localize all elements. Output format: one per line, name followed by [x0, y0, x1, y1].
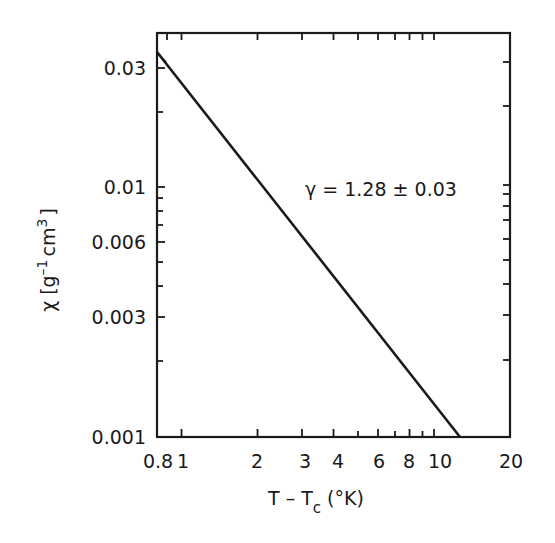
x-tick-label: 6 — [373, 450, 385, 472]
x-axis-unit: (°K) — [321, 487, 364, 509]
y-tick-label: 0.01 — [104, 176, 146, 198]
y-axis-bracket-close: ] — [37, 208, 59, 215]
y-tick-label: 0.006 — [92, 231, 146, 253]
y-tick-label: 0.001 — [92, 426, 146, 448]
y-axis-symbol: χ — [37, 301, 59, 312]
plot-frame — [157, 33, 510, 437]
x-tick-label: 0.8 — [143, 450, 173, 472]
x-axis-main: T – T — [267, 487, 313, 509]
y-tick-label: 0.003 — [92, 306, 146, 328]
y-ticks-left — [157, 68, 165, 361]
y-axis-bracket-open: [g — [37, 275, 59, 294]
x-tick-label: 4 — [332, 450, 344, 472]
y-axis-mid: cm — [37, 227, 59, 256]
x-tick-label: 8 — [403, 450, 415, 472]
x-axis-subscript: c — [313, 499, 321, 517]
x-tick-label: 20 — [499, 450, 523, 472]
x-tick-label: 2 — [251, 450, 263, 472]
x-ticks-bottom — [182, 429, 435, 437]
gamma-annotation: γ = 1.28 ± 0.03 — [305, 178, 457, 200]
y-tick-label: 0.03 — [104, 57, 146, 79]
svg-text:χ[g–1cm3]: χ[g–1cm3] — [34, 208, 59, 312]
x-tick-label: 10 — [428, 450, 452, 472]
y-axis-exp2: 3 — [34, 219, 50, 228]
x-tick-label: 1 — [177, 450, 189, 472]
fit-line — [157, 52, 460, 437]
x-axis-label: T – Tc (°K) — [267, 487, 364, 517]
y-axis-label: χ[g–1cm3] — [34, 208, 59, 312]
x-tick-label: 3 — [299, 450, 311, 472]
chart-canvas: 0.03 0.01 0.006 0.003 0.001 0.8 1 2 3 4 … — [0, 0, 555, 543]
y-axis-exp1: –1 — [34, 259, 50, 275]
line-start-mark — [157, 52, 166, 62]
